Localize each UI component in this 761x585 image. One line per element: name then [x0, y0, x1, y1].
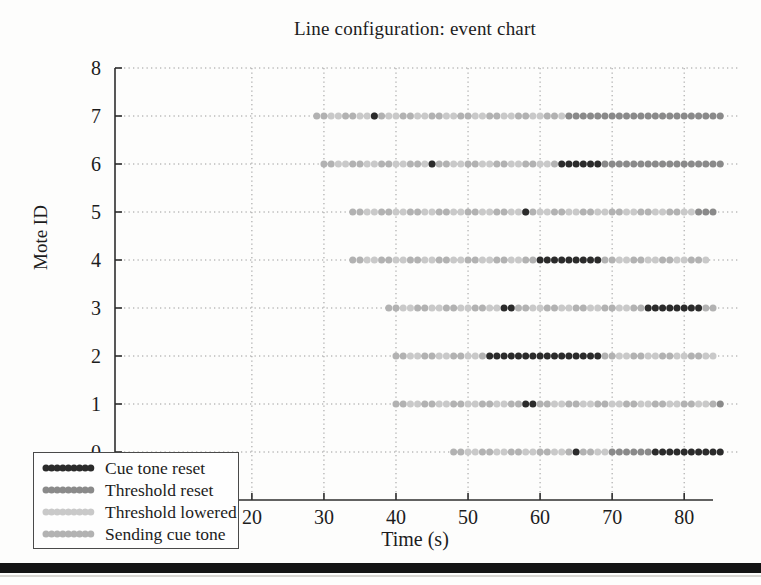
- event-dot: [378, 209, 385, 216]
- event-dot: [551, 161, 558, 168]
- event-dot: [529, 209, 536, 216]
- event-dot: [666, 353, 673, 360]
- event-dot: [681, 257, 688, 264]
- event-dot: [493, 257, 500, 264]
- event-dot: [565, 401, 572, 408]
- mote-5-series: [349, 209, 716, 216]
- event-dot: [594, 353, 601, 360]
- event-dot: [407, 209, 414, 216]
- event-dot: [573, 209, 580, 216]
- event-dot: [392, 209, 399, 216]
- y-tick-label-1: 1: [91, 393, 101, 415]
- event-dot: [501, 209, 508, 216]
- event-dot: [472, 209, 479, 216]
- event-dot: [565, 305, 572, 312]
- event-dot: [479, 161, 486, 168]
- event-dot: [659, 449, 666, 456]
- event-dot: [501, 401, 508, 408]
- event-dot: [414, 113, 421, 120]
- event-dot: [385, 209, 392, 216]
- event-dot: [558, 113, 565, 120]
- event-dot: [594, 401, 601, 408]
- event-dot: [616, 113, 623, 120]
- event-dot: [601, 161, 608, 168]
- event-dot: [508, 449, 515, 456]
- event-dot: [623, 113, 630, 120]
- event-dot: [587, 305, 594, 312]
- event-dot: [630, 209, 637, 216]
- event-dot: [457, 305, 464, 312]
- event-dot: [443, 353, 450, 360]
- event-dot: [457, 257, 464, 264]
- event-dot: [551, 113, 558, 120]
- x-tick-label-50: 50: [458, 506, 478, 528]
- event-dot: [630, 353, 637, 360]
- mote-3-series: [385, 305, 716, 312]
- event-dot: [695, 161, 702, 168]
- event-dot: [465, 353, 472, 360]
- event-dot: [594, 449, 601, 456]
- event-dot: [717, 401, 724, 408]
- event-dot: [421, 401, 428, 408]
- event-dot: [429, 161, 436, 168]
- event-dot: [580, 113, 587, 120]
- event-dot: [400, 113, 407, 120]
- event-dot: [371, 161, 378, 168]
- event-dot: [702, 113, 709, 120]
- event-dot: [666, 161, 673, 168]
- legend-marker-dot: [87, 509, 94, 516]
- event-dot: [472, 353, 479, 360]
- event-dot: [328, 161, 335, 168]
- event-dot: [407, 401, 414, 408]
- event-dot: [349, 257, 356, 264]
- event-dot: [529, 161, 536, 168]
- event-dot: [652, 209, 659, 216]
- event-dot: [320, 161, 327, 168]
- event-dot: [659, 257, 666, 264]
- event-dot: [580, 161, 587, 168]
- event-dot: [472, 113, 479, 120]
- event-dot: [479, 401, 486, 408]
- event-dot: [529, 113, 536, 120]
- event-dot: [529, 353, 536, 360]
- event-dot: [479, 113, 486, 120]
- event-dot: [544, 353, 551, 360]
- event-dot: [320, 113, 327, 120]
- event-dot: [501, 353, 508, 360]
- bottom-page-rule: [0, 563, 761, 573]
- event-dot: [695, 113, 702, 120]
- mote-1-series: [392, 401, 723, 408]
- event-dot: [349, 113, 356, 120]
- event-dot: [688, 305, 695, 312]
- event-dot: [371, 209, 378, 216]
- event-dot: [616, 161, 623, 168]
- event-dot: [421, 161, 428, 168]
- event-dot: [493, 305, 500, 312]
- event-dot: [637, 449, 644, 456]
- event-dot: [710, 113, 717, 120]
- cue_tone_reset-marker-icon: [42, 463, 96, 473]
- event-dot: [673, 449, 680, 456]
- event-dot: [710, 401, 717, 408]
- event-dot: [601, 401, 608, 408]
- y-tick-labels: 012345678: [91, 57, 101, 463]
- event-dot: [609, 113, 616, 120]
- event-dot: [544, 161, 551, 168]
- event-dot: [609, 305, 616, 312]
- event-dot: [710, 353, 717, 360]
- x-tick-label-30: 30: [314, 506, 334, 528]
- event-dot: [695, 449, 702, 456]
- event-dot: [616, 209, 623, 216]
- event-dot: [508, 401, 515, 408]
- event-dot: [666, 257, 673, 264]
- event-dot: [565, 257, 572, 264]
- event-dot: [623, 209, 630, 216]
- event-dot: [529, 257, 536, 264]
- event-dot: [529, 401, 536, 408]
- event-dot: [356, 257, 363, 264]
- x-tick-label-70: 70: [602, 506, 622, 528]
- event-dot: [392, 113, 399, 120]
- event-dot: [537, 209, 544, 216]
- legend-item-label: Cue tone reset: [105, 458, 205, 479]
- event-dot: [573, 449, 580, 456]
